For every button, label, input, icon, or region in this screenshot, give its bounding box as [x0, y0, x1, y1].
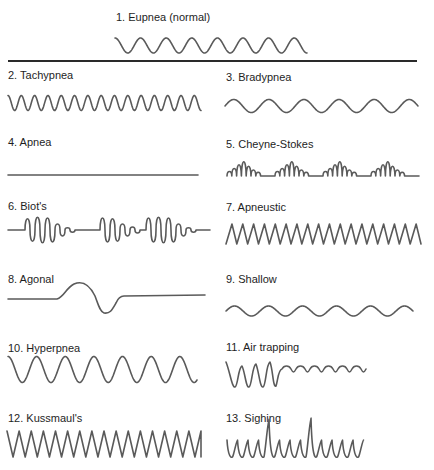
waveform-sighing: [227, 418, 364, 457]
waveform-cheyne-stokes: [227, 162, 419, 176]
waveform-agonal: [8, 283, 205, 313]
waveform-tachypnea: [8, 96, 201, 111]
respiratory-waveforms: [0, 0, 434, 470]
waveform-biots: [8, 217, 210, 243]
waveform-apneustic: [226, 224, 421, 244]
waveform-eupnea: [115, 38, 307, 53]
waveform-kussmauls: [7, 431, 201, 457]
waveform-shallow: [226, 306, 413, 316]
waveform-bradypnea: [225, 100, 418, 113]
waveform-hyperpnea: [8, 357, 197, 383]
waveform-air-trapping: [226, 362, 366, 387]
